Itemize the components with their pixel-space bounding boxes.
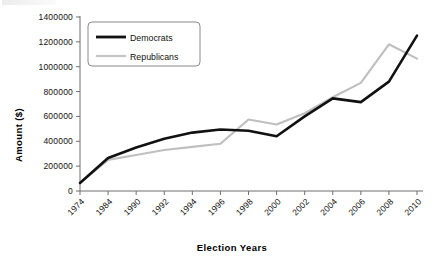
x-tick-label: 2004 bbox=[318, 196, 339, 217]
x-axis-title: Election Years bbox=[197, 242, 267, 253]
y-tick-label: 400000 bbox=[43, 136, 73, 146]
x-tick-label: 2008 bbox=[374, 196, 395, 217]
line-chart: 1400000120000010000008000006000004000002… bbox=[0, 0, 438, 263]
x-tick-label: 1974 bbox=[65, 196, 86, 217]
y-axis-title: Amount ($) bbox=[13, 108, 24, 162]
x-tick-label: 1998 bbox=[234, 196, 255, 217]
y-tick-label: 0 bbox=[68, 186, 73, 196]
y-axis: 1400000120000010000008000006000004000002… bbox=[39, 12, 81, 196]
x-tick-label: 2002 bbox=[290, 196, 311, 217]
y-tick-label: 1000000 bbox=[39, 62, 74, 72]
y-tick-label: 800000 bbox=[43, 87, 73, 97]
x-tick-label: 1994 bbox=[178, 196, 199, 217]
y-tick-label: 1400000 bbox=[39, 12, 74, 22]
x-tick-label: 2000 bbox=[262, 196, 283, 217]
x-tick-label: 2010 bbox=[402, 196, 423, 217]
x-tick-label: 2006 bbox=[346, 196, 367, 217]
legend-label: Republicans bbox=[130, 52, 179, 62]
chart-canvas: 1400000120000010000008000006000004000002… bbox=[0, 0, 438, 263]
legend-label: Democrats bbox=[130, 33, 173, 43]
x-tick-label: 1992 bbox=[150, 196, 171, 217]
y-tick-label: 600000 bbox=[43, 111, 73, 121]
chart-legend: DemocratsRepublicans bbox=[88, 22, 200, 66]
y-tick-label: 1200000 bbox=[39, 37, 74, 47]
y-tick-label: 200000 bbox=[43, 161, 73, 171]
x-tick-label: 1996 bbox=[206, 196, 227, 217]
x-tick-label: 1984 bbox=[93, 196, 114, 217]
x-tick-label: 1990 bbox=[122, 196, 143, 217]
x-axis: 1974198419901992199419961998200020022004… bbox=[65, 191, 423, 217]
